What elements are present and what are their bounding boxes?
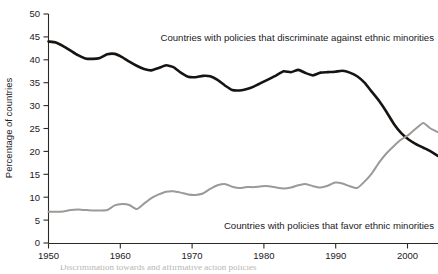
y-axis-group: 50 45 40 35 30 25 20 15 10 5 0 Percentag… (3, 8, 49, 248)
x-tick-label-1950: 1950 (38, 250, 59, 261)
figure-caption-strip: Discrimination towards and affirmative a… (0, 265, 438, 274)
series-annotations: Countries with policies that discriminat… (160, 32, 434, 231)
y-tick-label-0: 0 (35, 237, 40, 248)
y-tick-label-50: 50 (29, 8, 40, 19)
x-tick-label-1990: 1990 (325, 250, 346, 261)
x-tick-label-1970: 1970 (182, 250, 203, 261)
figure-caption: Discrimination towards and affirmative a… (60, 265, 257, 272)
x-tick-label-1980: 1980 (253, 250, 274, 261)
y-tick-label-45: 45 (29, 31, 40, 42)
y-axis-title: Percentage of countries (3, 78, 14, 179)
series-lines (49, 41, 438, 211)
favor-series-label: Countries with policies that favor ethni… (224, 220, 434, 231)
line-chart-canvas: 50 45 40 35 30 25 20 15 10 5 0 Percentag… (0, 0, 438, 274)
y-tick-marks (44, 14, 49, 243)
y-tick-label-40: 40 (29, 54, 40, 65)
x-tick-label-2000: 2000 (397, 250, 418, 261)
series-line-discriminate (49, 41, 438, 156)
y-tick-label-5: 5 (35, 215, 40, 226)
x-tick-marks (49, 244, 408, 249)
discriminate-series-label: Countries with policies that discriminat… (160, 32, 434, 43)
y-tick-label-35: 35 (29, 77, 40, 88)
series-line-favor (49, 123, 438, 212)
y-tick-label-30: 30 (29, 100, 40, 111)
y-tick-label-15: 15 (29, 169, 40, 180)
y-tick-label-20: 20 (29, 146, 40, 157)
y-tick-label-25: 25 (29, 123, 40, 134)
y-tick-label-10: 10 (29, 192, 40, 203)
chart-figure: 50 45 40 35 30 25 20 15 10 5 0 Percentag… (0, 0, 438, 274)
x-axis-group: 1950 1960 1970 1980 1990 2000 (38, 244, 438, 262)
x-tick-label-1960: 1960 (110, 250, 131, 261)
